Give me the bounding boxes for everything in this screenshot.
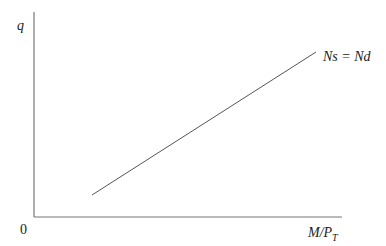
ns-nd-line (92, 52, 316, 195)
origin-label: 0 (20, 222, 27, 237)
x-axis-label-sub: T (332, 232, 339, 243)
chart-canvas: q 0 M/PT Ns = Nd (0, 0, 386, 246)
curve-label: Ns = Nd (322, 49, 372, 64)
x-axis-label-main: M/P (307, 225, 333, 240)
x-axis-label: M/PT (307, 225, 339, 243)
y-axis-label: q (17, 18, 24, 33)
